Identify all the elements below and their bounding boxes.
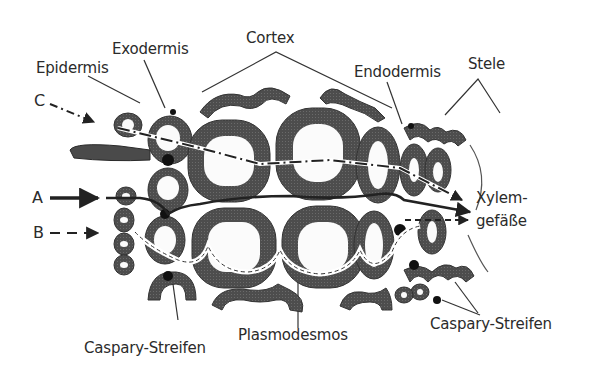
label-cortex: Cortex [246,31,294,46]
pathway-a-arrow [50,194,470,214]
label-pathway-a: A [32,190,43,206]
label-caspary-left: Caspary-Streifen [84,341,206,356]
label-xylem-line1: Xylem- [476,191,527,206]
label-pathway-c: C [34,93,45,109]
label-epidermis: Epidermis [36,61,109,76]
label-xylem-line2: gefäße [476,214,527,229]
label-plasmodesmos: Plasmodesmos [238,328,348,343]
label-exodermis: Exodermis [112,42,189,57]
label-stele: Stele [468,57,505,72]
cortex-cells-lower [192,206,394,288]
label-endodermis: Endodermis [354,65,441,80]
cortex-cells-upper [188,108,400,203]
stele-arcs [468,145,488,272]
label-caspary-right: Caspary-Streifen [430,317,552,332]
endodermis-stele-cells [395,123,474,303]
epidermis-cells [70,113,150,275]
label-pathway-b: B [33,225,44,241]
